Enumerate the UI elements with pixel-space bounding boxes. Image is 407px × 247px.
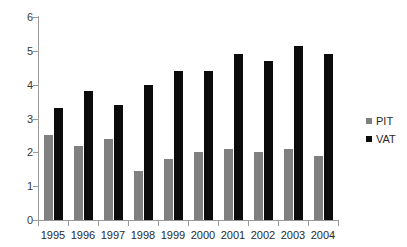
bar-pit-1998 xyxy=(134,171,143,220)
bar-pit-1997 xyxy=(104,139,113,220)
bar-pit-2003 xyxy=(284,149,293,220)
bar-pit-2002 xyxy=(254,152,263,220)
legend-item-vat[interactable]: VAT xyxy=(366,130,407,148)
bar-pit-2004 xyxy=(314,156,323,220)
bar-vat-1999 xyxy=(174,71,183,220)
y-axis-tick-label: 3 xyxy=(7,114,33,125)
bar-vat-1996 xyxy=(84,91,93,220)
y-axis-tick-label: 2 xyxy=(7,147,33,158)
bar-pit-1996 xyxy=(74,146,83,220)
y-axis-tick-label: 0 xyxy=(7,215,33,226)
y-axis-tick-label: 5 xyxy=(7,46,33,57)
x-axis-tick-mark xyxy=(38,220,39,226)
x-axis-tick-mark xyxy=(68,220,69,226)
x-axis-tick-mark xyxy=(248,220,249,226)
x-axis-tick-mark xyxy=(308,220,309,226)
bar-vat-1995 xyxy=(54,108,63,220)
bar-pit-1999 xyxy=(164,159,173,220)
x-axis-tick-mark xyxy=(278,220,279,226)
bar-pit-1995 xyxy=(44,135,53,220)
x-axis-tick-mark xyxy=(98,220,99,226)
bar-group xyxy=(224,14,243,220)
legend-item-pit[interactable]: PIT xyxy=(366,112,407,130)
bar-pit-2000 xyxy=(194,152,203,220)
bar-vat-2002 xyxy=(264,61,273,220)
y-axis-tick-label: 1 xyxy=(7,181,33,192)
bar-vat-2003 xyxy=(294,46,303,220)
bar-pit-2001 xyxy=(224,149,233,220)
bar-group xyxy=(104,14,123,220)
bar-group xyxy=(194,14,213,220)
bar-vat-1998 xyxy=(144,85,153,220)
x-axis-tick-mark xyxy=(158,220,159,226)
bar-group xyxy=(134,14,153,220)
legend-swatch-icon xyxy=(366,118,372,124)
bar-group xyxy=(44,14,63,220)
y-axis-tick-label: 4 xyxy=(7,80,33,91)
bar-group xyxy=(164,14,183,220)
bar-group xyxy=(314,14,333,220)
x-axis-tick-mark xyxy=(338,220,339,226)
bar-vat-1997 xyxy=(114,105,123,220)
bar-group xyxy=(254,14,273,220)
plot-area xyxy=(38,14,338,220)
x-axis-tick-mark xyxy=(188,220,189,226)
y-axis-tick-label: 6 xyxy=(7,12,33,23)
bar-group xyxy=(284,14,303,220)
chart-legend: PITVAT xyxy=(366,112,407,148)
bar-chart: 0123456 19951996199719981999200020012002… xyxy=(0,0,407,247)
bar-vat-2000 xyxy=(204,71,213,220)
legend-swatch-icon xyxy=(366,136,372,142)
bar-vat-2001 xyxy=(234,54,243,220)
x-axis-tick-mark xyxy=(218,220,219,226)
bar-vat-2004 xyxy=(324,54,333,220)
x-axis-tick-mark xyxy=(128,220,129,226)
x-axis-tick-label: 2004 xyxy=(303,229,343,241)
legend-item-label: PIT xyxy=(376,116,393,127)
bar-group xyxy=(74,14,93,220)
legend-item-label: VAT xyxy=(376,134,396,145)
